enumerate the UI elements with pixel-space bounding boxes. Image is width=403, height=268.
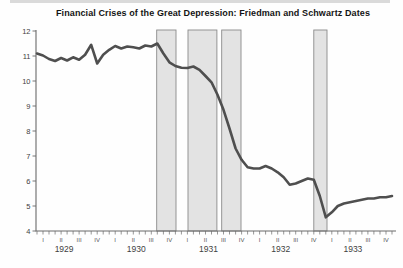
quarter-label: IV: [167, 237, 173, 243]
y-tick-label: 5: [26, 202, 30, 211]
quarter-label: IV: [311, 237, 317, 243]
y-tick-label: 4: [26, 227, 30, 236]
year-label: 1933: [343, 244, 362, 254]
y-tick-label: 8: [26, 127, 30, 136]
year-label: 1929: [55, 244, 74, 254]
quarter-label: III: [293, 237, 298, 243]
year-label: 1931: [199, 244, 218, 254]
quarter-label: II: [348, 237, 352, 243]
quarter-label: IV: [239, 237, 245, 243]
quarter-label: I: [42, 237, 44, 243]
crisis-band: [188, 30, 217, 231]
quarter-label: III: [365, 237, 370, 243]
quarter-label: II: [204, 237, 208, 243]
quarter-label: I: [331, 237, 333, 243]
chart-screenshot: Financial Crises of the Great Depression…: [0, 0, 403, 268]
quarter-label: I: [114, 237, 116, 243]
y-tick-label: 7: [26, 152, 30, 161]
y-tick-label: 10: [22, 77, 30, 86]
quarter-label: I: [187, 237, 189, 243]
quarter-label: III: [77, 237, 82, 243]
quarter-label: IV: [383, 237, 389, 243]
crisis-band: [157, 30, 176, 231]
y-tick-label: 9: [26, 102, 30, 111]
quarter-label: II: [59, 237, 63, 243]
quarter-label: III: [221, 237, 226, 243]
quarter-label: II: [132, 237, 136, 243]
quarter-label: I: [259, 237, 261, 243]
y-tick-label: 6: [26, 177, 30, 186]
year-label: 1930: [127, 244, 146, 254]
y-tick-label: 12: [22, 27, 30, 36]
chart-canvas: 456789101112IIIIIIIV1929IIIIIIIV1930IIII…: [0, 0, 403, 268]
year-label: 1932: [271, 244, 290, 254]
quarter-label: III: [149, 237, 154, 243]
quarter-label: II: [276, 237, 280, 243]
y-tick-label: 11: [23, 52, 31, 61]
quarter-label: IV: [94, 237, 100, 243]
